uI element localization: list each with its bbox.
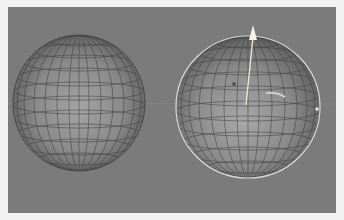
3d-viewport[interactable]: 3D viewport — [8, 7, 336, 213]
sphere-left[interactable] — [13, 35, 145, 171]
pivot-point-icon — [232, 82, 236, 86]
sphere-right[interactable] — [176, 36, 320, 178]
gizmo-z-handle[interactable] — [315, 107, 319, 111]
gizmo-y-arrow-icon[interactable] — [249, 25, 257, 40]
